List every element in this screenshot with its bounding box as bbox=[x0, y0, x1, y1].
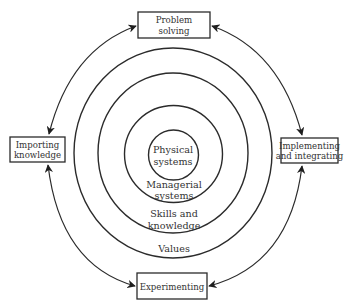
arrow-problem-importing bbox=[49, 26, 136, 134]
box-experimenting: Experimenting bbox=[137, 273, 207, 299]
box-implementing-line2: and integrating bbox=[276, 151, 344, 161]
ring-physical-systems bbox=[149, 130, 199, 180]
box-problem-solving-line2: solving bbox=[159, 26, 190, 36]
box-problem-solving: Problem solving bbox=[138, 12, 210, 38]
box-implementing-integrating: Implementing and integrating bbox=[276, 138, 344, 163]
arrow-implementing-experimenting bbox=[209, 166, 302, 286]
arrow-importing-experimenting bbox=[48, 165, 135, 286]
box-experimenting-line1: Experimenting bbox=[140, 282, 205, 292]
arrow-problem-implementing bbox=[212, 26, 302, 135]
label-skills-line2: knowledge bbox=[148, 220, 201, 231]
knowledge-cycle-diagram: Physical systems Managerial systems Skil… bbox=[0, 0, 346, 303]
box-importing-knowledge: Importing knowledge bbox=[10, 137, 65, 162]
label-values: Values bbox=[157, 243, 190, 254]
label-physical-line1: Physical bbox=[153, 144, 193, 155]
box-importing-line1: Importing bbox=[16, 140, 60, 150]
box-importing-line2: knowledge bbox=[14, 150, 61, 160]
box-problem-solving-line1: Problem bbox=[156, 15, 193, 25]
box-implementing-line1: Implementing bbox=[279, 141, 340, 151]
label-managerial-line1: Managerial bbox=[146, 179, 202, 190]
label-skills-line1: Skills and bbox=[150, 208, 198, 219]
label-managerial-line2: systems bbox=[155, 190, 194, 201]
label-physical-line2: systems bbox=[154, 156, 193, 167]
